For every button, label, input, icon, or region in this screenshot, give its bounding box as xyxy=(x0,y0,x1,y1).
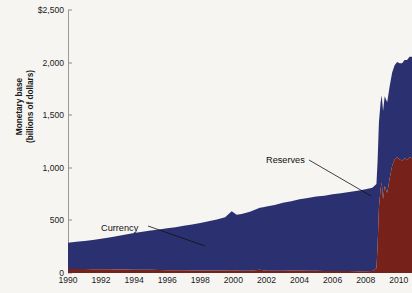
annotation-currency: Currency xyxy=(101,223,138,233)
annotation-reserves: Reserves xyxy=(266,155,305,165)
leader-line-currency xyxy=(148,226,205,246)
leader-line-reserves xyxy=(309,160,371,196)
annotation-leader-lines xyxy=(0,0,412,293)
monetary-base-chart-figure: Monetary base(billions of dollars) 05001… xyxy=(0,0,412,293)
